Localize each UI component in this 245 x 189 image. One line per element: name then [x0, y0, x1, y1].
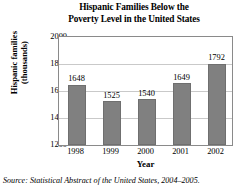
bar-value-2002: 1792 — [200, 54, 234, 62]
bar-value-1998: 1648 — [60, 75, 94, 83]
x-tick-label-1999: 1999 — [93, 148, 128, 156]
bar-value-1999: 1525 — [95, 92, 129, 100]
x-axis-title: Year — [58, 160, 233, 169]
bar-chart-figure: Hispanic Families Below the Poverty Leve… — [0, 0, 245, 189]
y-axis-title: Hispanic families (thousands) — [10, 4, 29, 122]
plot-area: 1648 1525 1540 1649 1792 — [58, 36, 233, 146]
bar-slot-2002: 1792 — [199, 37, 234, 145]
bar-value-2001: 1649 — [165, 74, 199, 82]
bar-value-2000: 1540 — [130, 90, 164, 98]
x-tick-label-2000: 2000 — [128, 148, 163, 156]
bar-2000[interactable] — [138, 99, 156, 145]
bar-slot-2000: 1540 — [129, 37, 164, 145]
bar-slot-2001: 1649 — [164, 37, 199, 145]
source-note: Source: Statistical Abstract of the Unit… — [3, 176, 242, 185]
bar-2002[interactable] — [208, 64, 226, 145]
chart-title-line-1: Hispanic Families Below the — [36, 2, 232, 14]
bar-1999[interactable] — [103, 101, 121, 145]
x-tick-label-2001: 2001 — [163, 148, 198, 156]
bar-1998[interactable] — [68, 85, 86, 146]
x-tick-label-2002: 2002 — [198, 148, 233, 156]
bar-slot-1998: 1648 — [59, 37, 94, 145]
bar-slot-1999: 1525 — [94, 37, 129, 145]
chart-title-line-2: Poverty Level in the United States — [36, 14, 232, 26]
y-axis-title-line-2: (thousands) — [20, 4, 30, 122]
x-tick-label-1998: 1998 — [58, 148, 93, 156]
bar-2001[interactable] — [173, 83, 191, 145]
chart-title: Hispanic Families Below the Poverty Leve… — [36, 2, 232, 25]
